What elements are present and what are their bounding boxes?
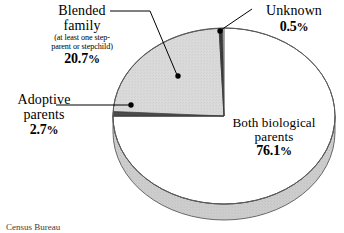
value-adoptive-parents: 2.7% — [2, 123, 86, 138]
label-unknown: Unknown 0.5% — [248, 4, 340, 34]
value-blended-family-number: 20.7 — [64, 51, 88, 66]
value-unknown: 0.5% — [248, 20, 340, 35]
value-unknown-number: 0.5 — [280, 19, 297, 34]
label-blended-family-line2: family — [24, 19, 140, 34]
label-both-biological-parents-line1: Both biological — [213, 116, 335, 130]
value-adoptive-parents-number: 2.7 — [30, 122, 47, 137]
label-adoptive-parents-line1: Adoptive — [2, 93, 86, 108]
label-blended-family: Blended family (at least one step- paren… — [24, 4, 140, 67]
label-unknown-line1: Unknown — [248, 4, 340, 19]
percent-sign-blended-family: % — [88, 52, 100, 66]
value-blended-family: 20.7% — [24, 52, 140, 67]
label-blended-family-sub-line2: parent or stepchild) — [24, 42, 140, 51]
dot-blended-family — [175, 73, 180, 78]
percent-sign-both-biological-parents: % — [280, 144, 292, 158]
dot-adoptive-parents — [128, 102, 133, 107]
dot-unknown — [217, 28, 222, 33]
percent-sign-unknown: % — [297, 20, 309, 34]
label-blended-family-sub-line1: (at least one step- — [24, 33, 140, 42]
percent-sign-adoptive-parents: % — [47, 123, 59, 137]
value-both-biological-parents: 76.1% — [213, 144, 335, 159]
value-both-biological-parents-number: 76.1 — [256, 143, 280, 158]
label-both-biological-parents: Both biological parents 76.1% — [213, 116, 335, 159]
label-adoptive-parents: Adoptive parents 2.7% — [2, 93, 86, 138]
source-note: Census Bureau — [6, 222, 60, 232]
label-blended-family-line1: Blended — [24, 4, 140, 19]
label-adoptive-parents-line2: parents — [2, 108, 86, 123]
label-both-biological-parents-line2: parents — [213, 130, 335, 144]
pie-chart-figure: Blended family (at least one step- paren… — [0, 0, 344, 233]
